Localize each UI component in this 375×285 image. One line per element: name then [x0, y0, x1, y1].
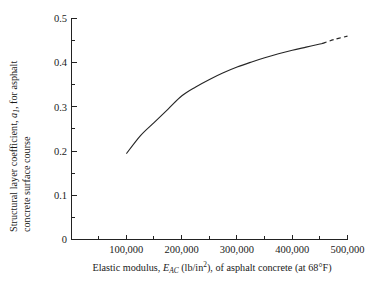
y-tick-label: 0.2 [54, 146, 67, 157]
x-tick-label: 500,000 [330, 244, 364, 255]
y-axis-tick-labels: 0 0.1 0.2 0.3 0.4 0.5 [54, 13, 68, 245]
x-axis-title-part2: (lb/in [179, 262, 204, 274]
x-axis-title-part3: ), of asphalt concrete (at 68°F) [207, 262, 332, 274]
y-tick-label: 0.3 [54, 102, 67, 113]
x-tick-label: 300,000 [220, 244, 254, 255]
x-tick-label: 400,000 [275, 244, 309, 255]
y-axis-title-line2: concrete surface course [21, 136, 32, 232]
chart-plot-area: 0 0.1 0.2 0.3 0.4 0.5 100,000 200,000 30… [0, 0, 375, 285]
x-axis-tick-labels: 100,000 200,000 300,000 400,000 500,000 [109, 244, 364, 255]
y-axis-title-line1: Structural layer coefficient, a1, for as… [8, 61, 21, 232]
y-axis-title-part1: Structural layer coefficient, [8, 118, 19, 232]
x-tick-label: 200,000 [165, 244, 199, 255]
x-axis-title: Elastic modulus, EAC (lb/in2), of asphal… [92, 260, 331, 275]
x-axis-major-ticks [126, 235, 347, 240]
x-axis-title-part1: Elastic modulus, [92, 262, 162, 273]
data-curve-solid [127, 43, 323, 153]
x-axis-title-subscript: AC [168, 266, 179, 275]
y-tick-label: 0.1 [54, 190, 67, 201]
y-tick-label: 0.5 [54, 13, 67, 24]
chart-figure: 0 0.1 0.2 0.3 0.4 0.5 100,000 200,000 30… [0, 0, 375, 285]
x-axis-minor-ticks [99, 236, 320, 240]
y-tick-label: 0.4 [54, 57, 68, 68]
y-axis-title-part2: , for asphalt [8, 61, 19, 110]
y-tick-label: 0 [62, 234, 67, 245]
x-tick-label: 100,000 [109, 244, 143, 255]
data-curve-dashed-extrapolation [323, 36, 348, 43]
